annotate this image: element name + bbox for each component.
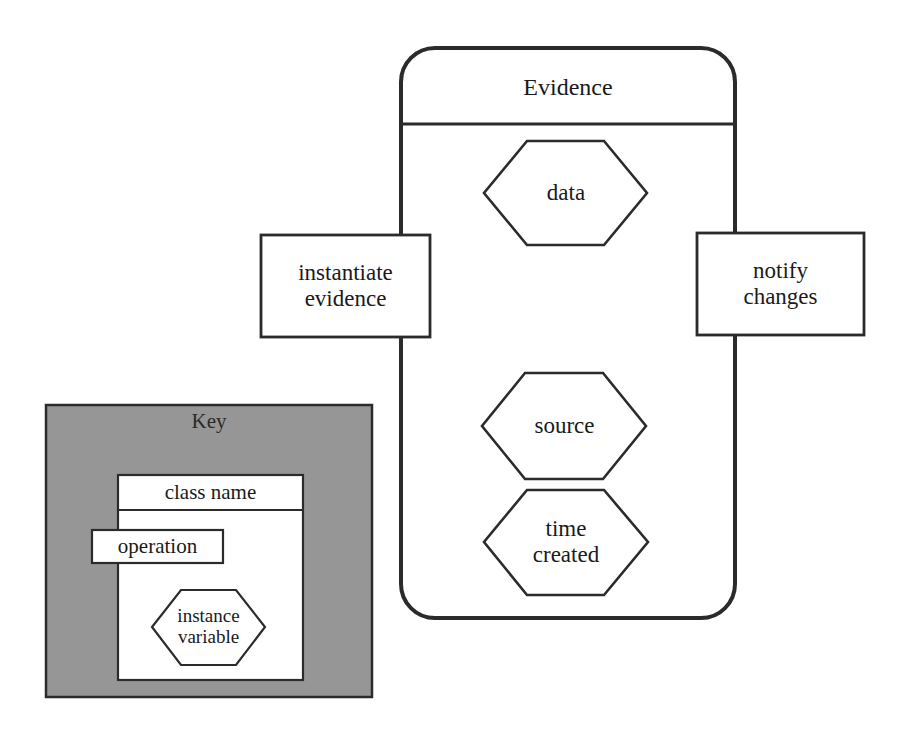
key-panel-group bbox=[46, 405, 372, 697]
diagram-canvas: Evidence data source time created instan… bbox=[0, 0, 907, 742]
notify-changes-operation-box bbox=[697, 233, 864, 335]
instantiate-evidence-operation-box bbox=[261, 235, 430, 337]
key-operation-box bbox=[92, 530, 223, 563]
diagram-shapes bbox=[0, 0, 907, 742]
